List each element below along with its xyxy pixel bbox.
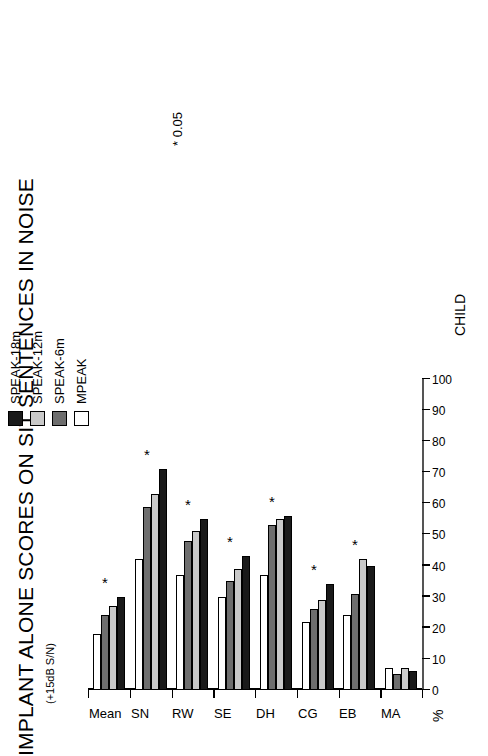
bar: [117, 597, 125, 690]
value-tick: [422, 564, 430, 565]
bar: [367, 566, 375, 690]
category-tick: [380, 689, 381, 698]
bar: [284, 516, 292, 690]
value-tick-label: 60: [432, 497, 445, 511]
category-tick: [255, 689, 256, 698]
bar: [200, 519, 208, 690]
value-tick: [422, 378, 430, 379]
bar: [326, 584, 334, 690]
significance-star: *: [227, 534, 233, 549]
bar: [409, 671, 417, 690]
significance-star: *: [269, 494, 275, 509]
legend-item-label: MPEAK: [74, 358, 89, 404]
value-tick-label: 50: [432, 529, 445, 543]
legend-item-label: SPEAK-6m: [52, 338, 67, 404]
chart-legend: SPEAK-18mSPEAK-12mSPEAK-6mMPEAK: [6, 331, 94, 426]
bar: [268, 525, 276, 690]
bar: [242, 556, 250, 690]
bar: [143, 507, 151, 690]
bar: [260, 575, 268, 690]
value-tick: [422, 658, 430, 659]
value-axis-title: %: [430, 710, 446, 722]
bar: [385, 668, 393, 690]
category-label: MA: [381, 706, 401, 721]
swatch-speak-18m: [8, 411, 23, 426]
legend-item-label: SPEAK-12m: [30, 331, 45, 404]
category-label: DH: [256, 706, 275, 721]
value-tick: [422, 595, 430, 596]
category-label: CG: [298, 706, 318, 721]
value-tick: [422, 626, 430, 627]
value-tick-label: 70: [432, 466, 445, 480]
category-tick: [339, 689, 340, 698]
category-tick: [213, 689, 214, 698]
swatch-speak-6m: [52, 411, 67, 426]
value-tick: [422, 440, 430, 441]
bar: [393, 674, 401, 690]
swatch-mpeak: [74, 411, 89, 426]
value-tick: [422, 502, 430, 503]
bar: [310, 609, 318, 690]
category-tick: [172, 689, 173, 698]
bar: [218, 597, 226, 690]
bar: [318, 600, 326, 690]
value-tick-label: 30: [432, 591, 445, 605]
value-tick-label: 10: [432, 653, 445, 667]
figure-page: IMPLANT ALONE SCORES ON SIT SENTENCES IN…: [0, 0, 488, 756]
bar: [401, 668, 409, 690]
significance-star: *: [185, 497, 191, 512]
plot-area: 0102030405060708090100 MAEBCGDHSERWSNMea…: [88, 379, 422, 690]
significance-star: *: [311, 562, 317, 577]
category-axis-title: CHILD: [452, 294, 468, 336]
bar: [184, 541, 192, 690]
swatch-speak-12m: [30, 411, 45, 426]
value-tick: [422, 471, 430, 472]
legend-item: SPEAK-18m: [6, 331, 25, 426]
bar: [351, 594, 359, 690]
bar: [276, 519, 284, 690]
legend-item-label: SPEAK-18m: [8, 331, 23, 404]
rotated-figure-canvas: IMPLANT ALONE SCORES ON SIT SENTENCES IN…: [0, 0, 488, 756]
bar: [109, 606, 117, 690]
bar: [359, 559, 367, 690]
value-tick: [422, 533, 430, 534]
value-tick-label: 0: [432, 684, 439, 698]
category-tick: [130, 689, 131, 698]
category-tick: [422, 689, 423, 698]
value-tick-label: 20: [432, 622, 445, 636]
value-tick: [422, 409, 430, 410]
bar: [176, 575, 184, 690]
significance-star: *: [144, 447, 150, 462]
category-label: SN: [131, 706, 149, 721]
category-label: SE: [214, 706, 231, 721]
value-axis-line: [422, 379, 424, 690]
value-tick-label: 90: [432, 404, 445, 418]
value-tick-label: 40: [432, 560, 445, 574]
category-tick: [297, 689, 298, 698]
bar: [302, 622, 310, 690]
value-tick-label: 80: [432, 435, 445, 449]
category-label: Mean: [89, 706, 122, 721]
bar: [101, 615, 109, 690]
bar: [234, 569, 242, 690]
chart-subtitle: (+15dB S/N): [44, 643, 56, 704]
bar: [93, 634, 101, 690]
significance-note: * 0.05: [170, 112, 185, 146]
legend-item: SPEAK-6m: [50, 331, 69, 426]
category-tick: [88, 689, 89, 698]
category-label: EB: [339, 706, 356, 721]
bar: [226, 581, 234, 690]
bar: [151, 494, 159, 690]
significance-star: *: [352, 537, 358, 552]
significance-star: *: [102, 575, 108, 590]
value-tick-label: 100: [432, 373, 452, 387]
bar: [192, 531, 200, 690]
legend-item: SPEAK-12m: [28, 331, 47, 426]
category-label: RW: [172, 706, 193, 721]
bar: [343, 615, 351, 690]
bar: [159, 469, 167, 690]
bar: [135, 559, 143, 690]
